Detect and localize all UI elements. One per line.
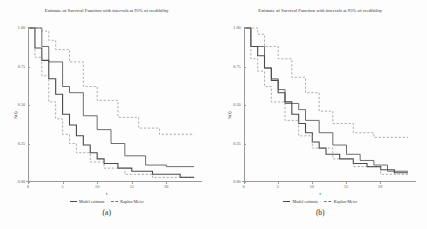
panel-a-caption: (a) — [0, 208, 214, 217]
panel-b-title: Estimate of Survival Function with inter… — [214, 9, 427, 14]
panel-b-legend-entry-km: Kaplan-Meier — [324, 199, 357, 204]
panel-a: Estimate of Survival Function with inter… — [0, 0, 214, 229]
panel-b-x-tick: 15 — [344, 182, 348, 189]
panel-a-y-tick: 0.75 — [18, 64, 28, 68]
panel-a-y-tick: 1.00 — [18, 26, 28, 30]
panel-a-curves — [28, 28, 194, 182]
legend-dashed-line-icon — [324, 201, 331, 202]
legend-line-icon — [70, 201, 77, 202]
panel-a-y-tick: 0.25 — [18, 141, 28, 145]
panel-b-legend: Model estimate Kaplan-Meier — [214, 199, 427, 204]
panel-b-legend-label-model: Model estimate — [293, 199, 319, 204]
panel-b-y-tick: 1.00 — [233, 26, 243, 30]
panel-a-x-tick: 15 — [130, 182, 134, 189]
panel-a-y-axis-label: S(t) — [13, 111, 18, 119]
panel-a-legend-label-km: Kaplan-Meier — [120, 199, 144, 204]
panel-a-x-tick: 5 — [62, 182, 64, 189]
panel-b-plot-area: 0.000.250.500.751.0005101520 — [244, 28, 408, 182]
panel-a-legend-entry-km: Kaplan-Meier — [111, 199, 144, 204]
panel-b-x-tick: 10 — [310, 182, 314, 189]
panel-a-series-solid-secondary — [28, 28, 194, 167]
panel-a-title: Estimate of Survival Function with inter… — [0, 9, 214, 14]
panel-a-series-dashed — [28, 28, 194, 134]
panel-b-x-tick: 5 — [277, 182, 279, 189]
panel-b-curves — [244, 28, 408, 182]
panel-a-x-axis-label: t — [0, 191, 214, 196]
panel-b-y-axis-label: S(t) — [227, 111, 232, 119]
panel-b-y-tick: 0.25 — [233, 141, 243, 145]
panel-b-legend-entry-model: Model estimate — [283, 199, 318, 204]
panel-b-y-tick: 0.50 — [233, 103, 243, 107]
panel-b: Estimate of Survival Function with inter… — [214, 0, 427, 229]
panel-a-y-tick: 0.50 — [18, 103, 28, 107]
legend-line-icon — [283, 201, 290, 202]
panel-b-series-solid — [244, 28, 408, 173]
panel-a-x-tick: 0 — [27, 182, 29, 189]
legend-dashed-line-icon — [111, 201, 118, 202]
panel-a-plot-area: 0.000.250.500.751.0005101520 — [28, 28, 194, 182]
panel-a-x-tick: 10 — [95, 182, 99, 189]
panel-b-caption: (b) — [214, 208, 427, 217]
panel-a-series-dashed — [28, 28, 194, 177]
panel-a-x-tick: 20 — [164, 182, 168, 189]
figure-root: Estimate of Survival Function with inter… — [0, 0, 427, 229]
panel-b-x-tick: 0 — [242, 182, 244, 189]
panel-a-legend-entry-model: Model estimate — [70, 199, 105, 204]
panel-b-series-dashed — [244, 28, 408, 137]
panel-b-legend-label-km: Kaplan-Meier — [334, 199, 358, 204]
panel-a-legend-label-model: Model estimate — [79, 199, 105, 204]
panel-a-legend: Model estimate Kaplan-Meier — [0, 199, 214, 204]
panel-b-x-axis-label: t — [214, 191, 427, 196]
panel-b-x-tick: 20 — [378, 182, 382, 189]
panel-a-series-solid — [28, 28, 194, 177]
panel-b-y-tick: 0.75 — [233, 64, 243, 68]
